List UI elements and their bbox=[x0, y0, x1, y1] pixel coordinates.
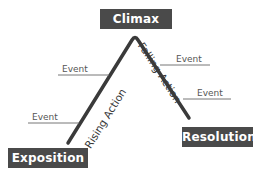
event-label-right-lower: Event bbox=[197, 88, 223, 98]
exposition-box: Exposition bbox=[8, 148, 88, 168]
plot-diagram: Climax Exposition Resolution Event Event… bbox=[0, 0, 260, 171]
resolution-label: Resolution bbox=[182, 130, 256, 144]
event-label-left-upper: Event bbox=[62, 64, 88, 74]
exposition-label: Exposition bbox=[12, 151, 85, 165]
event-label-right-upper: Event bbox=[176, 54, 202, 64]
resolution-box: Resolution bbox=[182, 127, 253, 147]
climax-label: Climax bbox=[113, 12, 160, 26]
event-label-left-lower: Event bbox=[32, 112, 58, 122]
climax-box: Climax bbox=[100, 9, 172, 29]
